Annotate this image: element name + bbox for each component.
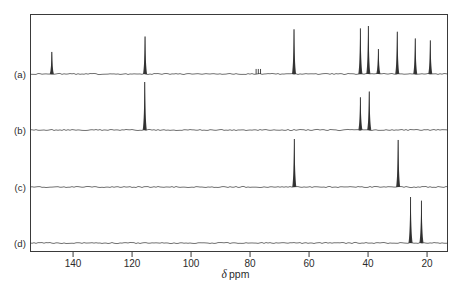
axis-unit: ppm — [229, 268, 249, 280]
trace-label-a: (a) — [0, 69, 26, 80]
trace-label-b: (b) — [0, 125, 26, 136]
trace-label-c: (c) — [0, 182, 26, 193]
axis-title: δppm — [0, 268, 471, 280]
trace-label-d: (d) — [0, 238, 26, 249]
spectra-canvas — [30, 14, 448, 252]
nmr-spectra-figure: (a) (b) (c) (d) 14012010080604020 δppm — [0, 0, 471, 295]
delta-symbol: δ — [222, 268, 229, 280]
